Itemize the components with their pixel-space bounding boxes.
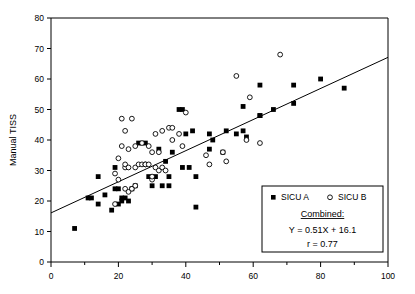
data-point-sicu-b xyxy=(224,159,229,164)
data-point-sicu-a xyxy=(291,101,296,106)
data-point-sicu-b xyxy=(146,144,151,149)
data-point-sicu-b xyxy=(204,153,209,158)
data-point-sicu-b xyxy=(177,132,182,137)
data-point-sicu-a xyxy=(167,183,172,188)
data-point-sicu-a xyxy=(96,174,101,179)
data-point-sicu-b xyxy=(163,168,168,173)
data-point-sicu-a xyxy=(96,202,101,207)
data-point-sicu-a xyxy=(194,205,199,210)
legend-label-sicu-a: SICU A xyxy=(281,192,309,202)
data-point-sicu-a xyxy=(207,147,212,152)
data-point-sicu-a xyxy=(170,150,175,155)
data-point-sicu-b xyxy=(180,144,185,149)
data-point-sicu-b xyxy=(126,165,131,170)
data-point-sicu-a xyxy=(72,226,77,231)
data-point-sicu-a xyxy=(180,165,185,170)
data-point-sicu-b xyxy=(207,162,212,167)
data-point-sicu-b xyxy=(220,150,225,155)
scatter-plot-figure: 01020304050607080020406080100Manual TISS… xyxy=(0,0,415,294)
data-point-sicu-a xyxy=(207,132,212,137)
y-tick-label: 0 xyxy=(39,257,44,267)
data-point-sicu-b xyxy=(119,144,124,149)
data-point-sicu-b xyxy=(119,116,124,121)
data-point-sicu-a xyxy=(194,174,199,179)
y-tick-label: 10 xyxy=(35,227,45,237)
data-point-sicu-a xyxy=(224,128,229,133)
data-point-sicu-a xyxy=(183,132,188,137)
x-tick-label: 40 xyxy=(181,271,191,281)
data-point-sicu-a xyxy=(163,159,168,164)
data-point-sicu-a xyxy=(190,128,195,133)
data-point-sicu-a xyxy=(318,77,323,82)
data-point-sicu-a xyxy=(187,165,192,170)
y-axis-title: Manual TISS xyxy=(8,114,18,166)
data-point-sicu-b xyxy=(247,95,252,100)
data-point-sicu-b xyxy=(156,150,161,155)
legend-equation: Y = 0.51X + 16.1 xyxy=(289,225,356,235)
data-point-sicu-b xyxy=(140,141,145,146)
data-point-sicu-b xyxy=(160,128,165,133)
data-point-sicu-b xyxy=(234,74,239,79)
legend-combined-heading: Combined: xyxy=(301,209,345,219)
data-point-sicu-a xyxy=(113,165,118,170)
data-point-sicu-b xyxy=(129,116,134,121)
data-point-sicu-a xyxy=(167,174,172,179)
data-point-sicu-a xyxy=(258,83,263,88)
data-point-sicu-a xyxy=(342,86,347,91)
data-point-sicu-b xyxy=(133,183,138,188)
data-point-sicu-a xyxy=(109,208,114,213)
y-tick-label: 50 xyxy=(35,105,45,115)
data-point-sicu-b xyxy=(150,150,155,155)
data-point-sicu-a xyxy=(291,83,296,88)
legend-correlation: r = 0.77 xyxy=(307,239,338,249)
data-point-sicu-b xyxy=(113,202,118,207)
data-point-sicu-b xyxy=(170,138,175,143)
data-point-sicu-b xyxy=(113,171,118,176)
y-tick-label: 30 xyxy=(35,166,45,176)
chart-canvas: 01020304050607080020406080100Manual TISS… xyxy=(0,0,415,294)
x-tick-label: 100 xyxy=(381,271,395,281)
data-point-sicu-a xyxy=(116,186,121,191)
data-point-sicu-a xyxy=(271,107,276,112)
x-tick-label: 80 xyxy=(316,271,326,281)
data-point-sicu-b xyxy=(153,132,158,137)
data-point-sicu-b xyxy=(183,110,188,115)
y-tick-label: 70 xyxy=(35,44,45,54)
data-point-sicu-a xyxy=(160,183,165,188)
y-tick-label: 40 xyxy=(35,135,45,145)
data-point-sicu-a xyxy=(150,183,155,188)
x-tick-label: 20 xyxy=(114,271,124,281)
data-point-sicu-a xyxy=(89,196,94,201)
series-sicu-b-points xyxy=(113,52,283,206)
data-point-sicu-a xyxy=(241,128,246,133)
x-tick-label: 60 xyxy=(248,271,258,281)
legend-label-sicu-b: SICU B xyxy=(338,192,367,202)
data-point-sicu-b xyxy=(123,128,128,133)
data-point-sicu-a xyxy=(241,104,246,109)
data-point-sicu-a xyxy=(103,193,108,198)
x-tick-label: 0 xyxy=(49,271,54,281)
data-point-sicu-b xyxy=(170,125,175,130)
data-point-sicu-b xyxy=(244,138,249,143)
data-point-sicu-b xyxy=(146,162,151,167)
data-point-sicu-b xyxy=(278,52,283,57)
data-point-sicu-b xyxy=(258,141,263,146)
y-tick-label: 20 xyxy=(35,196,45,206)
y-tick-label: 60 xyxy=(35,74,45,84)
data-point-sicu-a xyxy=(210,138,215,143)
legend-marker-sicu-a xyxy=(271,195,276,200)
data-point-sicu-a xyxy=(258,113,263,118)
data-point-sicu-a xyxy=(234,132,239,137)
legend-marker-sicu-b xyxy=(328,195,333,200)
data-point-sicu-a xyxy=(126,199,131,204)
data-point-sicu-b xyxy=(126,147,131,152)
data-point-sicu-b xyxy=(116,177,121,182)
legend-group[interactable]: SICU ASICU BCombined:Y = 0.51X + 16.1r =… xyxy=(262,186,383,252)
y-tick-label: 80 xyxy=(35,13,45,23)
data-point-sicu-b xyxy=(150,174,155,179)
data-point-sicu-b xyxy=(116,156,121,161)
data-point-sicu-b xyxy=(133,144,138,149)
